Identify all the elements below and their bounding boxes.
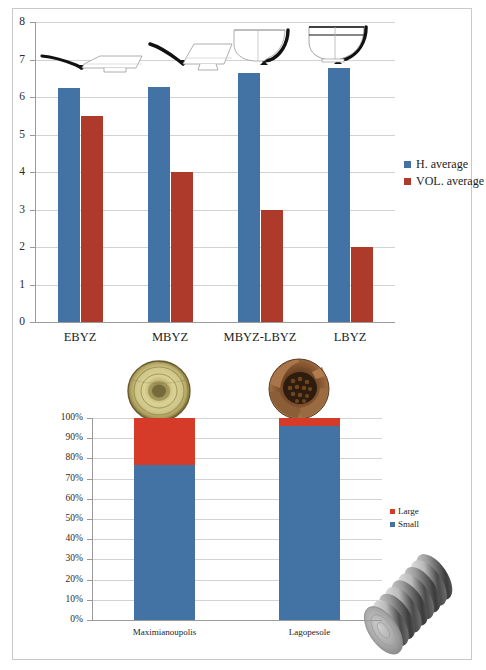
y-axis-label: 20%: [53, 575, 83, 585]
segment-maximianoupolis-small: [134, 465, 195, 621]
legend-item-haverage: H. average: [404, 158, 484, 171]
legend-swatch: [404, 178, 411, 185]
photo-glazed-bowl: [126, 360, 192, 422]
photo-broken-vessel: [266, 358, 332, 420]
bar-mbyz-lbyz-haverage: [238, 73, 260, 322]
y-axis-label: 30%: [53, 554, 83, 564]
y-axis-label: 7: [3, 54, 25, 66]
y-axis-line: [35, 22, 36, 322]
vessel-profile-lbyz: [304, 24, 374, 66]
legend-item-volaverage: VOL. average: [404, 175, 484, 188]
x-axis-label-lbyz: LBYZ: [290, 331, 410, 344]
y-axis-label: 3: [3, 204, 25, 216]
y-axis-label: 50%: [53, 514, 83, 524]
segment-maximianoupolis-large: [134, 418, 195, 465]
legend-swatch: [390, 522, 395, 527]
vessel-profile-ebyz: [40, 48, 144, 76]
y-axis-label: 10%: [53, 595, 83, 605]
gridline-0: [35, 322, 395, 323]
tick-0: [87, 620, 92, 621]
chart-vessel-averages: 012345678EBYZMBYZMBYZ-LBYZLBYZ: [0, 0, 486, 358]
bar-ebyz-volaverage: [81, 116, 103, 322]
legend-label: Large: [398, 506, 419, 516]
legend-item-large: Large: [390, 506, 419, 516]
x-axis-label-maximianoupolis: Maximianoupolis: [95, 627, 235, 637]
figure-root: 012345678EBYZMBYZMBYZ-LBYZLBYZ: [0, 0, 486, 670]
y-axis-label: 1: [3, 279, 25, 291]
bar-mbyz-lbyz-volaverage: [261, 210, 283, 323]
y-axis-label: 6: [3, 91, 25, 103]
gridline-8: [35, 22, 395, 23]
y-axis-label: 2: [3, 241, 25, 253]
legend-label: VOL. average: [416, 175, 484, 188]
y-axis-label: 60%: [53, 494, 83, 504]
vessel-profile-mbyz: [148, 38, 238, 72]
legend-swatch: [390, 509, 395, 514]
legend-top-chart: H. averageVOL. average: [404, 158, 484, 192]
bar-lbyz-haverage: [328, 68, 350, 322]
tick-0: [30, 322, 35, 323]
legend-label: H. average: [416, 158, 468, 171]
bar-ebyz-haverage: [58, 88, 80, 322]
vessel-profile-mbyz-lbyz: [228, 28, 296, 68]
chart-size-distribution: 0%10%20%30%40%50%60%70%80%90%100%Maximia…: [0, 358, 486, 670]
y-axis-label: 4: [3, 166, 25, 178]
plot-area-bottom: 0%10%20%30%40%50%60%70%80%90%100%Maximia…: [92, 418, 382, 620]
legend-item-small: Small: [390, 519, 419, 529]
y-axis-label: 40%: [53, 534, 83, 544]
y-axis-label: 0%: [53, 615, 83, 625]
y-axis-label: 90%: [53, 433, 83, 443]
y-axis-line: [92, 418, 93, 620]
x-axis-label-lagopesole: Lagopesole: [240, 627, 380, 637]
gridline-0: [92, 620, 382, 621]
y-axis-label: 100%: [53, 413, 83, 423]
y-axis-label: 80%: [53, 453, 83, 463]
bar-mbyz-volaverage: [171, 172, 193, 322]
y-axis-label: 8: [3, 16, 25, 28]
legend-label: Small: [398, 519, 419, 529]
y-axis-label: 5: [3, 129, 25, 141]
legend-bottom-chart: LargeSmall: [390, 506, 419, 532]
segment-lagopesole-small: [279, 426, 340, 620]
y-axis-label: 0: [3, 316, 25, 328]
bar-lbyz-volaverage: [351, 247, 373, 322]
legend-swatch: [404, 161, 411, 168]
bar-mbyz-haverage: [148, 87, 170, 323]
y-axis-label: 70%: [53, 474, 83, 484]
segment-lagopesole-large: [279, 418, 340, 426]
